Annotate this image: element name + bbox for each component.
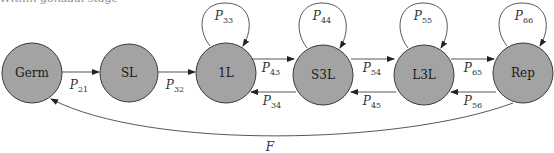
node-1l: 1L: [196, 43, 256, 103]
label-p56: P56: [463, 94, 482, 110]
label-p65: P65: [463, 61, 482, 77]
state-transition-diagram: Germ SL 1L S3L L3L Rep P21 P32 P33 P43 P…: [0, 0, 554, 153]
self-loop-p55: [400, 3, 447, 48]
node-label: S3L: [311, 68, 335, 82]
node-l3l: L3L: [394, 45, 454, 105]
label-p21: P21: [69, 78, 88, 94]
edge-f: [51, 99, 513, 136]
node-label: L3L: [412, 68, 436, 82]
label-p66: P66: [514, 9, 533, 25]
self-loop-p44: [299, 3, 346, 48]
label-p34: P34: [262, 94, 281, 110]
label-f: F: [265, 140, 275, 153]
node-germ: Germ: [2, 43, 62, 103]
label-p54: P54: [362, 61, 381, 77]
label-p32: P32: [165, 78, 184, 94]
label-p43: P43: [261, 61, 280, 77]
label-p33: P33: [214, 9, 233, 25]
node-label: Germ: [15, 66, 49, 80]
node-sl: SL: [100, 44, 158, 102]
node-label: SL: [121, 66, 137, 80]
node-s3l: S3L: [293, 45, 353, 105]
node-label: 1L: [218, 66, 234, 80]
label-p45: P45: [362, 94, 381, 110]
label-p44: P44: [312, 9, 331, 25]
label-p55: P55: [413, 9, 432, 25]
node-rep: Rep: [493, 43, 553, 103]
node-label: Rep: [511, 66, 535, 80]
